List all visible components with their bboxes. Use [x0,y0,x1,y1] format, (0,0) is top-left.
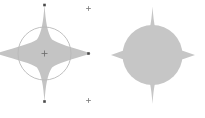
vector-editor-canvas[interactable] [0,0,205,118]
handle-bottom[interactable] [43,100,46,103]
canvas-svg-surface[interactable] [0,0,205,118]
handle-top[interactable] [43,4,46,7]
handle-right[interactable] [87,52,90,55]
union-circle-component[interactable] [123,25,183,85]
